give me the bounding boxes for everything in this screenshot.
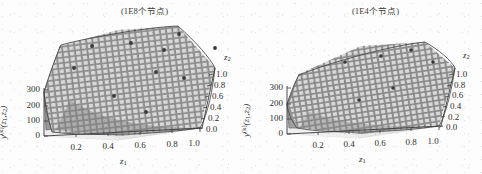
ztick-left-5: 0.0 [206,124,230,134]
yaxis-label-left-a3: ) [0,106,8,109]
ytick-left-2: 100 [14,115,40,125]
figure-container: (1E8个节点) [0,0,482,174]
yaxis-label-right-a3: ) [241,104,251,107]
xaxis-label-right-sub: 1 [363,157,366,164]
yaxis-label-right-main: y [241,133,251,137]
xtick-left-3: 0.8 [161,139,183,149]
ztick-right-2: 0.6 [452,90,476,100]
xtick-right-1: 0.4 [338,139,360,149]
ztick-right-0: 1.0 [456,69,480,79]
ztick-right-1: 0.8 [454,80,478,90]
xtick-left-0: 0.2 [65,142,87,152]
yaxis-label-right: y(k)(z1,z2) [240,104,251,137]
ytick-right-0: 300 [257,82,283,92]
ztick-right-5: 0.0 [446,122,470,132]
xtick-right-3: 0.8 [400,137,422,147]
ytick-right-2: 100 [257,113,283,123]
yaxis-label-left-main: y [0,135,8,139]
ztick-left-3: 0.4 [210,102,234,112]
ytick-right-3: 0 [257,128,283,138]
ztick-left-1: 0.8 [214,80,238,90]
xaxis-label-left: z1 [120,156,127,166]
xtick-left-2: 0.6 [129,140,151,150]
yaxis-label-right-a1: (z [241,119,251,126]
xtick-right-0: 0.2 [307,140,329,150]
ztick-left-0: 1.0 [216,69,240,79]
yaxis-label-left-a2: ,z [0,112,8,118]
xtick-right-2: 0.6 [369,138,391,148]
xtick-left-4: 1.0 [183,138,205,148]
xtick-left-1: 0.4 [97,141,119,151]
yaxis-label-left-a1: (z [0,121,8,128]
zaxis-label-right: z2 [463,50,470,60]
ztick-right-4: 0.2 [448,112,472,122]
ztick-left-2: 0.6 [212,91,236,101]
ytick-right-1: 200 [257,98,283,108]
ztick-right-3: 0.4 [450,101,474,111]
zaxis-label-left-sub: 2 [228,55,231,62]
yaxis-label-left: y(k)(z1,z2) [0,106,8,139]
plot-panel-right: (1E4个节点) [241,0,482,174]
ytick-left-3: 0 [14,130,40,140]
yaxis-label-left-sup: (k) [0,127,4,135]
plot-panel-left: (1E8个节点) [0,0,241,174]
xaxis-label-right: z1 [359,154,366,164]
ytick-left-0: 300 [14,84,40,94]
xaxis-label-left-sub: 1 [124,159,127,166]
zaxis-label-right-sub: 2 [467,53,470,60]
ztick-left-4: 0.2 [208,113,232,123]
yaxis-label-right-a2: ,z [241,110,251,116]
zaxis-label-left: z2 [224,52,231,62]
yaxis-label-right-sup: (k) [240,125,247,133]
xtick-right-4: 1.0 [422,136,444,146]
ytick-left-1: 200 [14,100,40,110]
